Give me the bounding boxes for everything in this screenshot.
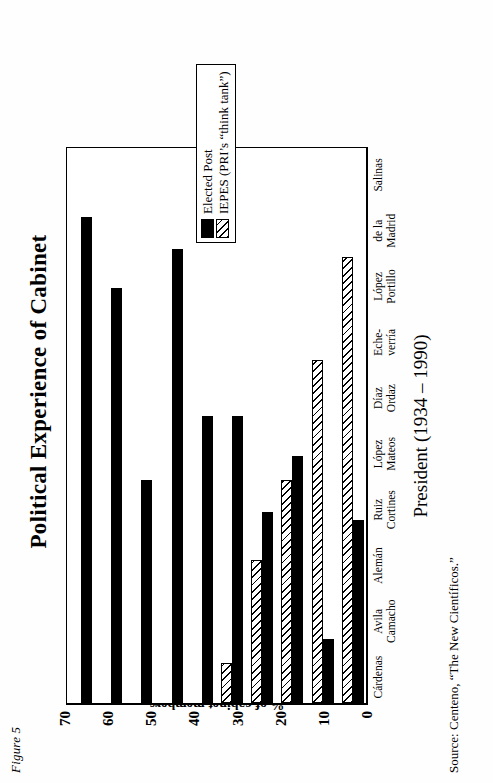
x-axis-category-label: Cárdenas: [372, 656, 385, 699]
x-axis-category-label: DíazOrdaz: [372, 384, 397, 412]
legend-swatches: [201, 219, 229, 238]
x-axis-category-label-line: Alemán: [372, 547, 385, 583]
x-axis-category-label-line: Mateos: [385, 437, 398, 471]
x-axis-category-label-line: Cárdenas: [372, 656, 385, 699]
y-axis-tick-label: 10: [316, 711, 333, 739]
bar-elected-post: [292, 456, 303, 703]
legend-swatch-elected-post: [201, 219, 214, 238]
bar-elected-post: [81, 217, 92, 703]
bar-iepes: [342, 257, 353, 703]
legend: Elected Post IEPES (PRI’s “think tank”): [196, 64, 236, 243]
x-axis-category-label: Salinas: [372, 158, 385, 191]
x-axis-category-label: Eche-verría: [372, 329, 397, 356]
x-axis-category-label-line: López: [372, 437, 385, 471]
x-axis-category-label-line: Avila: [372, 600, 385, 643]
y-axis-tick-label: 50: [143, 711, 160, 739]
x-axis-category-label-line: Madrid: [385, 214, 398, 248]
x-axis-category-label-line: Portillo: [385, 269, 398, 304]
bar-group: [97, 148, 127, 703]
x-axis-category-label-line: verría: [385, 329, 398, 356]
bar-group: [248, 148, 278, 703]
legend-swatch-iepes: [216, 219, 229, 238]
x-axis-category-label-line: Camacho: [385, 600, 398, 643]
x-axis-category-label-line: Ordaz: [385, 384, 398, 412]
y-axis-tick-label: 60: [100, 711, 117, 739]
bar-group: [339, 148, 369, 703]
bar-elected-post: [111, 289, 122, 704]
y-axis-tick-label: 40: [186, 711, 203, 739]
bar-group: [158, 148, 188, 703]
rotated-figure-canvas: Figure 5 Political Experience of Cabinet…: [0, 0, 493, 783]
x-axis-category-label: LópezPortillo: [372, 269, 397, 304]
x-axis-category-label-line: Cortines: [385, 490, 398, 529]
x-axis-category-label: RuizCortines: [372, 490, 397, 529]
page-title: Political Experience of Cabinet: [26, 0, 52, 783]
x-axis-category-label-line: Díaz: [372, 384, 385, 412]
legend-label-iepes: IEPES (PRI’s “think tank”): [217, 71, 231, 214]
x-axis-category-label-line: de la: [372, 214, 385, 248]
bar-elected-post: [262, 512, 273, 703]
bar-iepes: [251, 560, 262, 703]
bar-elected-post: [141, 480, 152, 703]
x-axis-category-labels: CárdenasAvilaCamachoAlemánRuizCortinesLó…: [370, 147, 410, 705]
x-axis-title: President (1934 – 1990): [410, 147, 432, 705]
bar-iepes: [312, 360, 323, 703]
bar-elected-post: [353, 520, 364, 703]
x-axis-category-label: LópezMateos: [372, 437, 397, 471]
legend-label-elected-post: Elected Post: [201, 71, 215, 214]
bar-iepes: [221, 663, 232, 703]
bar-iepes: [281, 480, 292, 703]
x-axis-category-label: AvilaCamacho: [372, 600, 397, 643]
legend-labels: Elected Post IEPES (PRI’s “think tank”): [201, 71, 231, 214]
x-axis-category-label-line: López: [372, 269, 385, 304]
bar-group: [309, 148, 339, 703]
figure-number: Figure 5: [8, 727, 24, 773]
x-axis-category-label: Alemán: [372, 547, 385, 583]
bar-elected-post: [323, 639, 334, 703]
x-axis-category-label: de laMadrid: [372, 214, 397, 248]
bar-group: [67, 148, 97, 703]
x-axis-category-label-line: Ruiz: [372, 490, 385, 529]
y-axis-tick-label: 20: [273, 711, 290, 739]
bar-group: [278, 148, 308, 703]
y-axis-tick-label: 0: [359, 711, 376, 739]
bar-elected-post: [232, 416, 243, 703]
y-axis-tick-label: 30: [230, 711, 247, 739]
y-axis-tick-label: 70: [57, 711, 74, 739]
bar-group: [127, 148, 157, 703]
y-axis-title-holder: % of cabinet members: [66, 737, 368, 757]
source-note: Source: Centeno, “The New Científicos.”: [446, 557, 462, 773]
bar-elected-post: [172, 249, 183, 703]
figure-sheet: Figure 5 Political Experience of Cabinet…: [0, 0, 493, 783]
x-axis-category-label-line: Eche-: [372, 329, 385, 356]
bar-elected-post: [202, 416, 213, 703]
x-axis-category-label-line: Salinas: [372, 158, 385, 191]
